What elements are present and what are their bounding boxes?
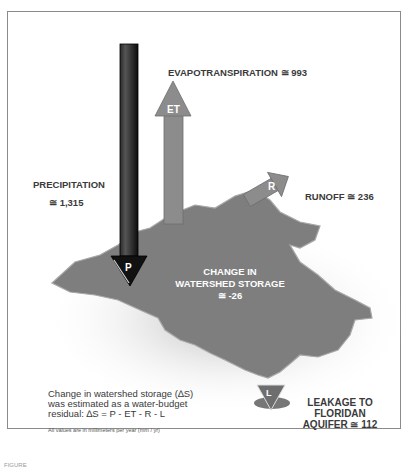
- et-arrow: [155, 81, 191, 224]
- leakage-line3: AQUIFER ≅ 112: [300, 419, 380, 430]
- precipitation-value: ≅ 1,315: [49, 197, 83, 208]
- budget-note: Change in watershed storage (∆S) was est…: [48, 389, 193, 419]
- storage-label: CHANGE IN WATERSHED STORAGE ≅ -26: [170, 266, 290, 302]
- leakage-label: LEAKAGE TO FLORIDAN AQUIFER ≅ 112: [300, 397, 380, 430]
- storage-line2: WATERSHED STORAGE: [170, 278, 290, 290]
- storage-value: ≅ -26: [170, 290, 290, 302]
- figure-label: FIGURE: [4, 462, 27, 468]
- precipitation-label: PRECIPITATION: [33, 179, 105, 190]
- units-note: All values are in millimeters per year (…: [48, 427, 160, 433]
- leakage-arrow-letter: L: [266, 388, 272, 398]
- precipitation-arrow-letter: P: [125, 262, 132, 273]
- note-line3: residual: ∆S = P - ET - R - L: [48, 409, 193, 419]
- runoff-arrow-letter: R: [268, 181, 275, 192]
- leakage-line2: FLORIDAN: [300, 408, 380, 419]
- evapotranspiration-label: EVAPOTRANSPIRATION ≅ 993: [168, 67, 307, 78]
- leakage-line1: LEAKAGE TO: [300, 397, 380, 408]
- runoff-label: RUNOFF ≅ 236: [305, 191, 374, 202]
- et-arrow-letter: ET: [167, 104, 180, 115]
- storage-line1: CHANGE IN: [170, 266, 290, 278]
